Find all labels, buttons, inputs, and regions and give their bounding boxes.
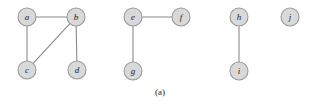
node-label-c: c <box>25 65 29 75</box>
graph-edge-b-c <box>33 24 70 64</box>
graph-node-f[interactable]: f <box>172 8 190 26</box>
graph-node-g[interactable]: g <box>124 62 142 80</box>
graph-node-b[interactable]: b <box>67 8 85 26</box>
graph-node-j[interactable]: j <box>281 8 299 26</box>
figure-caption: (a) <box>155 87 165 97</box>
node-label-h: h <box>237 12 242 22</box>
node-layer: abcdefghij <box>18 8 299 80</box>
graph-node-e[interactable]: e <box>124 8 142 26</box>
graph-figure: abcdefghij (a) <box>0 0 315 105</box>
graph-node-c[interactable]: c <box>18 61 36 79</box>
graph-node-a[interactable]: a <box>18 8 36 26</box>
node-label-b: b <box>74 12 79 22</box>
node-label-e: e <box>131 12 135 22</box>
node-label-a: a <box>25 12 30 22</box>
graph-node-d[interactable]: d <box>68 61 86 79</box>
node-label-d: d <box>75 65 80 75</box>
node-label-j: j <box>288 12 292 22</box>
graph-edge-b-d <box>76 26 77 61</box>
graph-node-h[interactable]: h <box>230 8 248 26</box>
graph-node-i[interactable]: i <box>230 62 248 80</box>
node-label-g: g <box>131 66 136 76</box>
